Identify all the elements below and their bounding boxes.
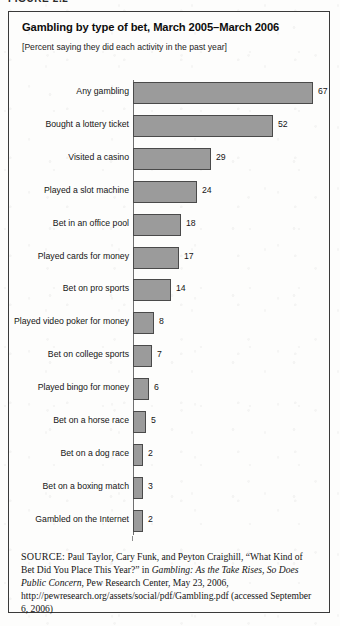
bar-row: Bet on a dog race2 <box>0 444 340 466</box>
bar <box>133 247 179 269</box>
bar-row: Played cards for money17 <box>0 247 340 269</box>
bar-value-label: 29 <box>216 152 226 162</box>
bar <box>133 411 146 433</box>
chart-title: Gambling by type of bet, March 2005–Marc… <box>22 21 279 33</box>
bar-category-label: Gambled on the Internet <box>35 514 129 524</box>
source-divider-tick <box>132 536 133 541</box>
bar-category-label: Played cards for money <box>38 251 129 261</box>
bar-value-label: 52 <box>278 119 288 129</box>
bar-value-label: 5 <box>151 415 156 425</box>
source-label: SOURCE: <box>21 551 65 562</box>
bar <box>133 345 152 367</box>
bar-value-label: 14 <box>176 283 186 293</box>
bar-row: Visited a casino29 <box>0 148 340 170</box>
bar-category-label: Bet on a dog race <box>60 448 129 458</box>
bar-row: Bet in an office pool18 <box>0 214 340 236</box>
bar-category-label: Played a slot machine <box>44 185 129 195</box>
bar-category-label: Bought a lottery ticket <box>45 119 129 129</box>
bar-value-label: 2 <box>148 514 153 524</box>
bar-value-label: 24 <box>202 185 212 195</box>
source-note: SOURCE: Paul Taylor, Cary Funk, and Peyt… <box>21 550 317 615</box>
bar-row: Bet on a boxing match3 <box>0 477 340 499</box>
bar <box>133 181 197 203</box>
bar-category-label: Played bingo for money <box>38 382 129 392</box>
bar-category-label: Bet in an office pool <box>53 218 129 228</box>
bar-value-label: 6 <box>154 382 159 392</box>
chart-subtitle: [Percent saying they did each activity i… <box>22 42 227 52</box>
bar <box>133 378 149 400</box>
bar-value-label: 17 <box>184 251 194 261</box>
bar-row: Bet on a horse race5 <box>0 411 340 433</box>
bar <box>133 148 211 170</box>
bar-row: Played video poker for money8 <box>0 312 340 334</box>
bar-value-label: 8 <box>159 316 164 326</box>
bar-category-label: Bet on pro sports <box>63 283 129 293</box>
bar-category-label: Any gambling <box>76 86 129 96</box>
bar-category-label: Bet on college sports <box>48 349 129 359</box>
bar-category-label: Visited a casino <box>68 152 129 162</box>
bar <box>133 510 143 532</box>
bar-category-label: Played video poker for money <box>14 316 129 326</box>
bar <box>133 444 143 466</box>
bar-row: Bought a lottery ticket52 <box>0 115 340 137</box>
bar-chart: Any gambling67Bought a lottery ticket52V… <box>0 78 340 538</box>
figure-number-caption: FIGURE 2.2 <box>8 0 68 4</box>
bar-value-label: 3 <box>148 481 153 491</box>
bar-row: Played bingo for money6 <box>0 378 340 400</box>
bar <box>133 477 143 499</box>
bar-row: Played a slot machine24 <box>0 181 340 203</box>
bar-row: Bet on college sports7 <box>0 345 340 367</box>
bar <box>133 214 181 236</box>
bar-row: Any gambling67 <box>0 82 340 104</box>
bar-row: Gambled on the Internet2 <box>0 510 340 532</box>
bar <box>133 115 273 137</box>
bar <box>133 312 154 334</box>
bar-value-label: 2 <box>148 448 153 458</box>
bar <box>133 82 313 104</box>
bar <box>133 279 171 301</box>
bar-category-label: Bet on a horse race <box>53 415 129 425</box>
bar-value-label: 18 <box>186 218 196 228</box>
bar-category-label: Bet on a boxing match <box>43 481 129 491</box>
bar-value-label: 67 <box>318 86 328 96</box>
bar-row: Bet on pro sports14 <box>0 279 340 301</box>
bar-value-label: 7 <box>157 349 162 359</box>
